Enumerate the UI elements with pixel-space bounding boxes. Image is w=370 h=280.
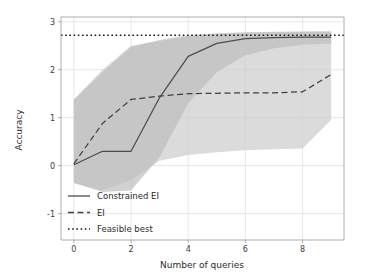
y-tick-label: 3 xyxy=(50,18,55,27)
legend-label-feasible-best: Feasible best xyxy=(97,224,153,234)
y-tick-label: 2 xyxy=(50,66,55,75)
legend-label-constrained-ei: Constrained EI xyxy=(97,191,159,201)
y-tick-label: -1 xyxy=(47,210,55,219)
chart-figure: 02468-10123 Number of queries Accuracy C… xyxy=(0,0,370,280)
x-tick-label: 0 xyxy=(71,245,76,254)
accuracy-vs-queries-chart: 02468-10123 Number of queries Accuracy C… xyxy=(0,0,370,280)
x-axis-title: Number of queries xyxy=(160,260,244,270)
y-tick-label: 0 xyxy=(50,162,55,171)
x-tick-label: 8 xyxy=(300,245,305,254)
x-tick-label: 6 xyxy=(243,245,248,254)
y-axis-title: Accuracy xyxy=(14,109,24,151)
y-tick-label: 1 xyxy=(50,114,55,123)
legend-label-ei: EI xyxy=(97,208,105,218)
x-tick-label: 2 xyxy=(128,245,133,254)
x-tick-label: 4 xyxy=(186,245,191,254)
